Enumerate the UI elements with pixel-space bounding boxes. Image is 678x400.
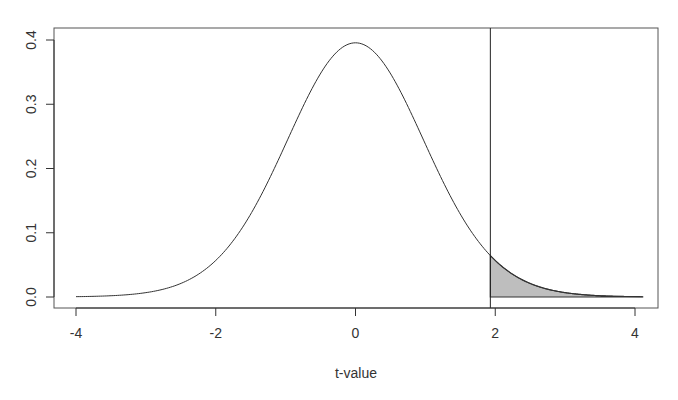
y-tick-label: 0.3 <box>23 94 39 114</box>
y-axis: 0.00.10.20.30.4 <box>23 30 54 307</box>
shaded-tail-area <box>490 256 642 297</box>
x-tick-label: -2 <box>210 325 223 341</box>
x-axis-title: t-value <box>335 365 377 381</box>
x-tick-label: 2 <box>491 325 499 341</box>
x-tick-label: 4 <box>631 325 639 341</box>
y-tick-label: 0.1 <box>23 223 39 243</box>
x-tick-label: 0 <box>352 325 360 341</box>
y-tick-label: 0.4 <box>23 30 39 50</box>
y-tick-label: 0.0 <box>23 287 39 307</box>
t-distribution-chart: -4-2024 0.00.10.20.30.4 t-value <box>0 0 678 400</box>
x-tick-label: -4 <box>70 325 83 341</box>
x-axis: -4-2024 <box>70 308 639 341</box>
y-tick-label: 0.2 <box>23 159 39 179</box>
plot-box <box>54 28 658 308</box>
density-curve <box>76 43 643 297</box>
